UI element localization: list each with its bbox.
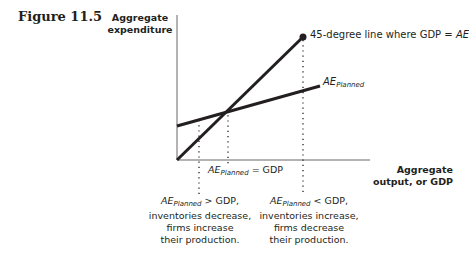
note-left-line2: inventories decrease, (145, 210, 255, 222)
note-right-rel: < GDP, (311, 195, 348, 206)
ae-planned-label-main: AE (323, 76, 336, 87)
note-right-line1: AEPlanned < GDP, (254, 195, 364, 210)
ae-planned-label: AEPlanned (323, 76, 364, 89)
equilibrium-label-rest: = GDP (249, 164, 283, 175)
equilibrium-label: AEPlanned = GDP (208, 164, 283, 177)
note-left-line1: AEPlanned > GDP, (145, 195, 255, 210)
x-axis-label: Aggregate output, or GDP (365, 164, 453, 188)
note-left-line4: their production. (145, 234, 255, 246)
note-right-line4: their production. (254, 234, 364, 246)
note-right-line2: inventories increase, (254, 210, 364, 222)
x-axis-label-line1: Aggregate (365, 164, 453, 176)
forty-five-label-ae: AE (456, 29, 469, 40)
equilibrium-label-sub: Planned (221, 169, 249, 177)
note-left-line3: firms increase (145, 222, 255, 234)
equilibrium-label-main: AE (208, 164, 221, 175)
forty-five-line-label: 45-degree line where GDP = AE (310, 29, 469, 40)
forty-five-label-text: 45-degree line where GDP = (310, 29, 456, 40)
note-left-sub: Planned (173, 200, 201, 208)
ae-planned-label-sub: Planned (336, 81, 364, 89)
forty-five-endpoint-dot (300, 34, 307, 41)
x-axis-label-line2: output, or GDP (365, 176, 453, 188)
forty-five-degree-line (177, 37, 303, 160)
note-ae-below-gdp: AEPlanned < GDP, inventories increase, f… (254, 195, 364, 246)
note-right-ae: AE (270, 195, 283, 206)
note-ae-above-gdp: AEPlanned > GDP, inventories decrease, f… (145, 195, 255, 246)
note-right-sub: Planned (282, 200, 310, 208)
note-right-line3: firms decrease (254, 222, 364, 234)
note-left-ae: AE (161, 195, 174, 206)
note-left-rel: > GDP, (202, 195, 239, 206)
